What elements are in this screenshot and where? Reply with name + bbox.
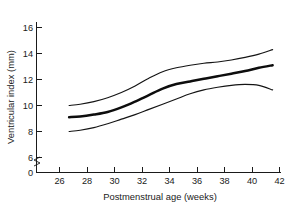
y-axis-break-icon: [34, 157, 40, 166]
x-tick-label: 36: [192, 176, 202, 186]
y-tick-label: 12: [23, 75, 33, 85]
y-axis-zero-label: 0: [28, 168, 33, 178]
x-tick-label: 28: [82, 176, 92, 186]
x-tick-label: 32: [137, 176, 147, 186]
y-tick-label: 10: [23, 101, 33, 111]
x-tick-label: 40: [247, 176, 257, 186]
y-tick-label: 16: [23, 23, 33, 33]
y-axis-tick-labels: 16 14 12 10 8 6 0: [23, 23, 33, 178]
x-tick-label: 34: [164, 176, 174, 186]
y-tick-label: 6: [28, 153, 33, 163]
mean-curve: [69, 65, 273, 117]
x-axis-title: Postmenstrual age (weeks): [103, 191, 217, 202]
x-tick-label: 30: [109, 176, 119, 186]
y-axis-ticks: [37, 28, 43, 158]
y-tick-label: 8: [28, 127, 33, 137]
x-tick-label: 42: [274, 176, 284, 186]
x-tick-label: 26: [54, 176, 64, 186]
x-axis-tick-labels: 26 28 30 32 34 36 38 40 42: [54, 176, 284, 186]
lower-centile-curve: [69, 84, 273, 131]
chart-figure: 16 14 12 10 8 6 0 26 28 30 32 34: [0, 0, 287, 210]
x-axis-ticks: [60, 167, 280, 173]
upper-centile-curve: [69, 50, 273, 106]
y-tick-label: 14: [23, 49, 33, 59]
y-axis-title: Ventricular index (mm): [5, 50, 16, 144]
x-tick-label: 38: [219, 176, 229, 186]
line-chart: 16 14 12 10 8 6 0 26 28 30 32 34: [0, 0, 287, 210]
